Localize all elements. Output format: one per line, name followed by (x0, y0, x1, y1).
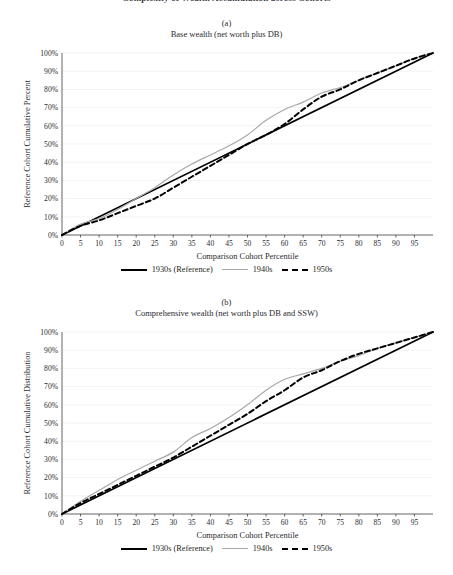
y-tick-label: 30% (44, 455, 59, 464)
figure-header-text: Complexity of Wealth Accumulation across… (0, 0, 453, 3)
y-tick-label: 30% (44, 176, 59, 185)
x-tick-label: 45 (225, 239, 233, 248)
x-tick-label: 0 (60, 239, 64, 248)
legend-swatch-1940s (222, 548, 248, 549)
y-tick-label: 0% (48, 510, 59, 519)
legend-item-1940s: 1940s (222, 265, 273, 274)
legend-label-1930s: 1930s (Reference) (152, 265, 213, 274)
y-tick-label: 60% (44, 122, 59, 131)
legend-label-1940s: 1940s (253, 265, 273, 274)
x-tick-label: 70 (318, 518, 326, 527)
y-axis-title: Reference Cohort Cumulative Distribution (23, 351, 32, 495)
legend-label-1940s: 1940s (253, 544, 273, 553)
x-tick-label: 65 (299, 518, 307, 527)
x-axis-title: Comparison Cohort Percentile (197, 531, 299, 540)
y-tick-label: 100% (40, 328, 58, 337)
panel-b-plot: 0%10%20%30%40%50%60%70%80%90%100%0510152… (0, 293, 453, 574)
y-tick-label: 100% (40, 49, 58, 58)
x-tick-label: 40 (207, 239, 215, 248)
legend-label-1930s: 1930s (Reference) (152, 544, 213, 553)
x-tick-label: 80 (355, 239, 363, 248)
y-tick-label: 60% (44, 401, 59, 410)
x-tick-label: 15 (114, 239, 122, 248)
x-tick-label: 15 (114, 518, 122, 527)
x-axis-title: Comparison Cohort Percentile (197, 252, 299, 261)
y-tick-label: 90% (44, 67, 59, 76)
panel-a-legend: 1930s (Reference) 1940s 1950s (0, 265, 453, 274)
x-tick-label: 60 (281, 239, 289, 248)
x-tick-label: 10 (95, 518, 103, 527)
y-tick-label: 10% (44, 492, 59, 501)
x-tick-label: 30 (170, 518, 178, 527)
legend-swatch-1930s (121, 269, 147, 271)
y-tick-label: 50% (44, 140, 59, 149)
legend-swatch-1940s (222, 269, 248, 270)
x-tick-label: 55 (262, 239, 270, 248)
panel-b: (b) Comprehensive wealth (net worth plus… (0, 293, 453, 574)
x-tick-label: 75 (336, 518, 344, 527)
x-tick-label: 30 (170, 239, 178, 248)
x-tick-label: 70 (318, 239, 326, 248)
x-tick-label: 85 (374, 518, 382, 527)
x-tick-label: 60 (281, 518, 289, 527)
y-tick-label: 80% (44, 364, 59, 373)
legend-swatch-1950s (282, 269, 308, 271)
x-tick-label: 85 (374, 239, 382, 248)
legend-item-1930s: 1930s (Reference) (121, 265, 213, 274)
legend-swatch-1930s (121, 548, 147, 550)
y-tick-label: 70% (44, 382, 59, 391)
y-axis-title: Reference Cohort Cumulative Percent (23, 79, 32, 207)
y-tick-label: 70% (44, 103, 59, 112)
y-tick-label: 50% (44, 419, 59, 428)
legend-item-1950s: 1950s (282, 265, 333, 274)
x-tick-label: 5 (79, 239, 83, 248)
panel-a-plot: 0%10%20%30%40%50%60%70%80%90%100%0510152… (0, 12, 453, 293)
x-tick-label: 35 (188, 239, 196, 248)
x-tick-label: 5 (79, 518, 83, 527)
x-tick-label: 90 (392, 239, 400, 248)
y-tick-label: 40% (44, 158, 59, 167)
x-tick-label: 25 (151, 239, 159, 248)
x-tick-label: 20 (132, 518, 140, 527)
x-tick-label: 80 (355, 518, 363, 527)
x-tick-label: 90 (392, 518, 400, 527)
y-tick-label: 10% (44, 213, 59, 222)
x-tick-label: 10 (95, 239, 103, 248)
x-tick-label: 50 (244, 239, 252, 248)
x-tick-label: 95 (411, 239, 419, 248)
x-tick-label: 35 (188, 518, 196, 527)
x-tick-label: 0 (60, 518, 64, 527)
panel-a: (a) Base wealth (net worth plus DB) 0%10… (0, 12, 453, 293)
panel-b-legend: 1930s (Reference) 1940s 1950s (0, 544, 453, 553)
x-tick-label: 55 (262, 518, 270, 527)
y-tick-label: 90% (44, 346, 59, 355)
x-tick-label: 20 (132, 239, 140, 248)
legend-item-1940s: 1940s (222, 544, 273, 553)
x-tick-label: 65 (299, 239, 307, 248)
x-tick-label: 45 (225, 518, 233, 527)
y-tick-label: 0% (48, 231, 59, 240)
legend-label-1950s: 1950s (313, 544, 333, 553)
y-tick-label: 80% (44, 85, 59, 94)
x-tick-label: 95 (411, 518, 419, 527)
y-tick-label: 20% (44, 194, 59, 203)
clipped-header-region: Complexity of Wealth Accumulation across… (0, 0, 453, 12)
x-tick-label: 50 (244, 518, 252, 527)
legend-label-1950s: 1950s (313, 265, 333, 274)
figure-container: Complexity of Wealth Accumulation across… (0, 0, 453, 575)
legend-swatch-1950s (282, 548, 308, 550)
x-tick-label: 25 (151, 518, 159, 527)
y-tick-label: 40% (44, 437, 59, 446)
x-tick-label: 75 (336, 239, 344, 248)
legend-item-1930s: 1930s (Reference) (121, 544, 213, 553)
y-tick-label: 20% (44, 473, 59, 482)
legend-item-1950s: 1950s (282, 544, 333, 553)
x-tick-label: 40 (207, 518, 215, 527)
